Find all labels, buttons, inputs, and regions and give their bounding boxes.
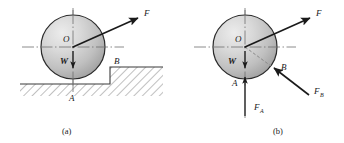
label-B-a: B — [114, 56, 120, 66]
label-O-b: O — [235, 34, 242, 44]
panel-b: O W F A B F A F B (b) — [194, 8, 324, 136]
label-O-a: O — [63, 34, 70, 44]
force-FB-arrow-b — [274, 68, 309, 95]
label-W-a: W — [60, 56, 69, 66]
label-FB-base: F — [313, 86, 320, 96]
label-FA-b: F A — [253, 102, 264, 114]
label-F-b: F — [315, 8, 322, 18]
panel-a: O W F A B (a) — [20, 8, 163, 136]
label-FB-b: F B — [313, 86, 324, 98]
label-FA-subscript: A — [259, 108, 264, 114]
label-B-b: B — [281, 62, 287, 72]
label-A-b: A — [231, 78, 238, 88]
label-FA-base: F — [253, 102, 260, 112]
label-A-a: A — [68, 93, 75, 103]
label-W-b: W — [228, 56, 237, 66]
label-FB-subscript: B — [320, 92, 324, 98]
caption-b: (b) — [273, 126, 283, 136]
figure-root: O W F A B (a) — [0, 0, 344, 143]
label-F-a: F — [143, 8, 150, 18]
free-body-diagram-figure: O W F A B (a) — [0, 0, 344, 143]
caption-a: (a) — [62, 126, 72, 136]
